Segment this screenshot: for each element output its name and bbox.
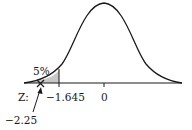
mean-label: 0 [101,91,108,103]
test-statistic-label: −2.25 [5,114,37,126]
normal-curve-diagram: 5% Z: −1.645 0 −2.25 [0,0,192,130]
pointer-arrow [33,90,40,112]
critical-value-label: −1.645 [46,91,85,103]
tail-percent-label: 5% [33,65,50,77]
arrow-head-icon [38,87,43,94]
axis-prefix-label: Z: [18,91,29,103]
